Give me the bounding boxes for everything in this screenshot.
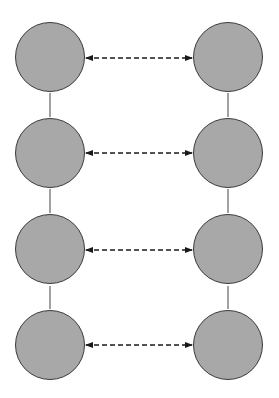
node-R2 <box>194 119 263 188</box>
node-L4 <box>16 311 85 380</box>
solid-edges <box>50 93 228 309</box>
node-R1 <box>194 23 263 92</box>
dashed-arrows <box>86 58 192 345</box>
ladder-diagram <box>0 0 279 398</box>
nodes <box>16 23 263 380</box>
node-R3 <box>194 215 263 284</box>
node-L3 <box>16 215 85 284</box>
node-R4 <box>194 311 263 380</box>
node-L2 <box>16 119 85 188</box>
node-L1 <box>16 23 85 92</box>
